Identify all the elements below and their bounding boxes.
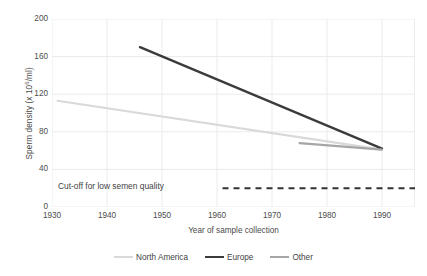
horizontal-gridlines bbox=[52, 19, 415, 207]
data-series-group bbox=[58, 47, 383, 149]
legend-label: North America bbox=[136, 253, 188, 262]
x-axis-tick-labels: 1930194019501960197019801990 bbox=[0, 211, 427, 225]
x-axis-tick-label: 1940 bbox=[87, 211, 127, 221]
legend-label: Other bbox=[292, 253, 312, 262]
series-line-europe bbox=[140, 47, 382, 149]
legend-swatch-icon bbox=[114, 256, 133, 258]
sperm-density-line-chart: Sperm density (x 106/ml) 04080120160200 … bbox=[0, 0, 427, 276]
x-axis-title: Year of sample collection bbox=[52, 226, 415, 235]
legend-swatch-icon bbox=[270, 256, 289, 258]
y-axis-tick-label: 80 bbox=[22, 128, 48, 136]
y-axis-tick-label: 200 bbox=[22, 15, 48, 23]
legend-item-other[interactable]: Other bbox=[270, 253, 312, 262]
y-axis-tick-labels: 04080120160200 bbox=[20, 0, 48, 276]
cutoff-annotation-label: Cut-off for low semen quality bbox=[58, 181, 164, 191]
vertical-gridlines bbox=[52, 19, 415, 207]
x-axis-tick-label: 1930 bbox=[32, 211, 72, 221]
chart-legend: North AmericaEuropeOther bbox=[0, 249, 427, 265]
x-axis-tick-label: 1960 bbox=[197, 211, 237, 221]
plot-svg bbox=[52, 19, 415, 207]
legend-item-europe[interactable]: Europe bbox=[205, 253, 253, 262]
plot-area bbox=[52, 19, 415, 207]
y-axis-tick-label: 120 bbox=[22, 90, 48, 98]
legend-item-north-america[interactable]: North America bbox=[114, 253, 188, 262]
x-axis-tick-label: 1980 bbox=[307, 211, 347, 221]
series-line-north-america bbox=[58, 101, 383, 150]
y-axis-tick-label: 0 bbox=[22, 203, 48, 211]
legend-label: Europe bbox=[227, 253, 253, 262]
x-axis-tick-label: 1990 bbox=[362, 211, 402, 221]
x-axis-tick-label: 1970 bbox=[252, 211, 292, 221]
x-axis-tick-label: 1950 bbox=[142, 211, 182, 221]
y-axis-tick-label: 160 bbox=[22, 53, 48, 61]
y-axis-tick-label: 40 bbox=[22, 165, 48, 173]
legend-swatch-icon bbox=[205, 256, 224, 258]
